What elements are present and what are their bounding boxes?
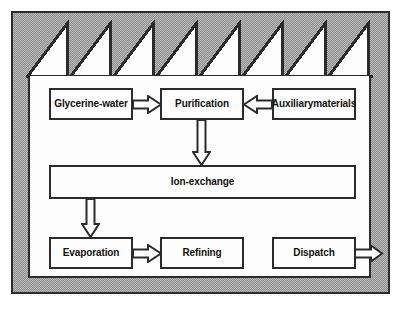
- process-box-dispatch-label: Dispatch: [293, 247, 334, 259]
- process-box-glycerine-water-line2: water: [102, 98, 128, 110]
- process-box-glycerine-water[interactable]: Glycerine- water: [49, 88, 133, 120]
- process-box-ion-exchange[interactable]: Ion-exchange: [49, 165, 356, 199]
- arrow-left-icon-auxiliary-to-purification: [243, 95, 273, 114]
- process-box-purification[interactable]: Purification: [160, 88, 244, 120]
- process-box-evaporation-label: Evaporation: [63, 247, 120, 259]
- process-box-auxiliary-materials[interactable]: Auxiliary materials: [272, 88, 356, 120]
- process-box-auxiliary-materials-line1: Auxiliary: [272, 98, 313, 110]
- process-box-ion-exchange-label: Ion-exchange: [171, 176, 234, 188]
- sawtooth-roof-icon: [26, 12, 373, 78]
- arrow-down-icon-purification-to-ion-exchange: [192, 119, 211, 166]
- arrow-right-icon-evaporation-to-refining: [132, 244, 162, 263]
- process-box-glycerine-water-line1: Glycerine-: [54, 98, 102, 110]
- process-box-auxiliary-materials-line2: materials: [313, 98, 356, 110]
- process-box-refining-label: Refining: [182, 247, 221, 259]
- arrow-right-icon-glycerine-to-purification: [132, 95, 162, 114]
- arrow-down-icon-ion-exchange-to-evaporation: [81, 198, 100, 238]
- arrow-right-icon-dispatch-to-outside: [355, 245, 395, 262]
- process-box-purification-label: Purification: [175, 98, 229, 110]
- process-box-evaporation[interactable]: Evaporation: [49, 237, 133, 269]
- process-box-refining[interactable]: Refining: [160, 237, 244, 269]
- diagram-canvas: Glycerine- water Purification Auxiliary …: [0, 0, 407, 312]
- process-box-dispatch[interactable]: Dispatch: [272, 237, 356, 269]
